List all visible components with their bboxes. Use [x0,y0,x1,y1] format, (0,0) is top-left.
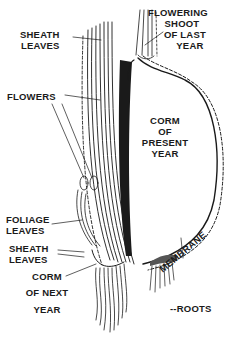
label-line: CORM [22,271,72,282]
label-line: YEAR [135,148,195,159]
label-line: OF NEXT [22,287,72,298]
label-flowers: FLOWERS [7,91,56,102]
label-flowering-shoot: FLOWERING SHOOT OF LAST YEAR [148,7,208,51]
label-line: FOLIAGE [6,214,50,225]
label-line: YEAR [22,304,72,315]
label-corm-present-year: CORM OF PRESENT YEAR [135,115,195,159]
membrane-dashed-outline [143,56,223,270]
label-line: OF [135,126,195,137]
label-line: PRESENT [135,137,195,148]
label-line: LEAVES [9,254,49,265]
corm-diagram: SHEATH LEAVES FLOWERING SHOOT OF LAST YE… [0,0,231,338]
label-line: LEAVES [6,225,50,236]
label-line: SHOOT [148,18,208,29]
label-sheath-leaves-top: SHEATH LEAVES [20,29,60,51]
label-roots: --ROOTS [170,303,212,314]
label-line: SHEATH [20,29,60,40]
label-sheath-leaves-bottom: SHEATH LEAVES [9,243,49,265]
label-line: YEAR [148,40,208,51]
label-line: FLOWERING [148,7,208,18]
label-foliage-leaves: FOLIAGE LEAVES [6,214,50,236]
roots [96,264,127,332]
label-line: SHEATH [9,243,49,254]
label-line: LEAVES [20,40,60,51]
label-line: CORM [135,115,195,126]
label-corm-next-year: CORM OF NEXT YEAR [22,271,72,315]
label-line: OF LAST [148,29,208,40]
